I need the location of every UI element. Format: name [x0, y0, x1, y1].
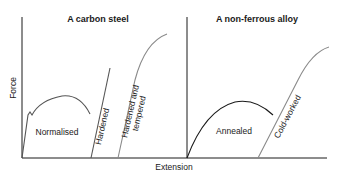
force-extension-diagram: A carbon steel A non-ferrous alloy Force…: [0, 0, 337, 178]
panel-title-carbon-steel: A carbon steel: [67, 14, 129, 24]
label-hardened-tempered: Hardened and tempered: [119, 84, 150, 141]
y-axis-label: Force: [8, 77, 18, 99]
label-annealed: Annealed: [216, 126, 252, 136]
panel-title-non-ferrous: A non-ferrous alloy: [216, 14, 298, 24]
label-hardened: Hardened: [93, 107, 111, 146]
label-normalised: Normalised: [36, 127, 79, 137]
x-axis-label: Extension: [155, 162, 193, 172]
